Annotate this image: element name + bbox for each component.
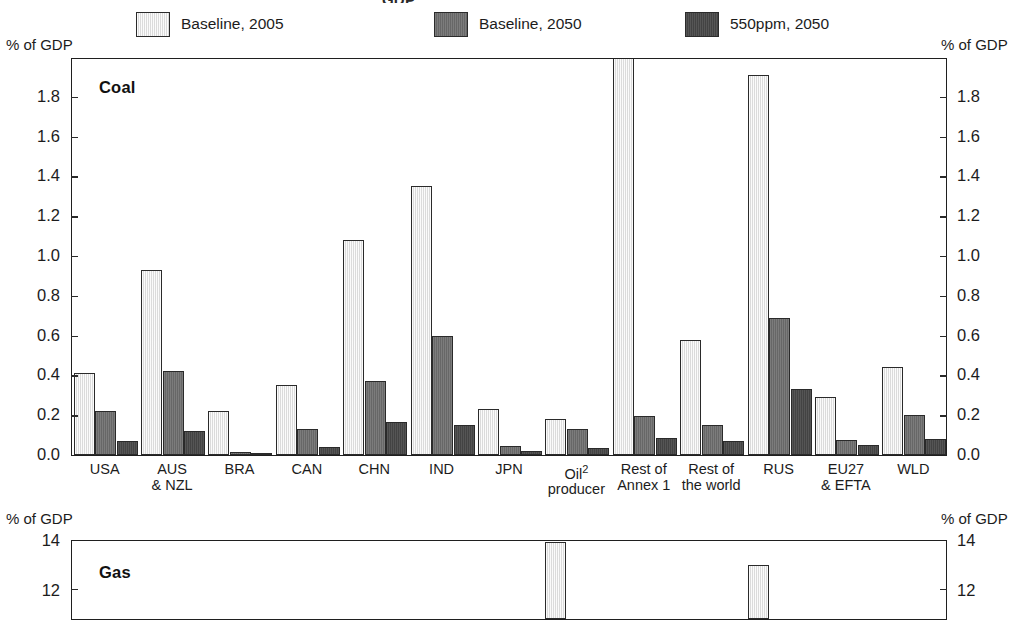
gas-ytick-12-right: 12 bbox=[957, 581, 975, 600]
gas-ytick-12-left: 12 bbox=[28, 581, 60, 600]
coal-tickmark-right-0.8 bbox=[940, 296, 947, 297]
coal-bar bbox=[791, 389, 812, 455]
coal-ytick-left-0.2: 0.2 bbox=[8, 405, 60, 424]
coal-bar bbox=[769, 318, 790, 455]
coal-plot-area bbox=[71, 58, 947, 456]
coal-tickmark-left-0.2 bbox=[71, 415, 78, 416]
coal-ytick-right-0.2: 0.2 bbox=[957, 405, 980, 424]
coal-ytick-right-1.0: 1.0 bbox=[957, 246, 980, 265]
coal-ytick-left-1.6: 1.6 bbox=[8, 127, 60, 146]
coal-bar bbox=[545, 419, 566, 455]
coal-bar bbox=[95, 411, 116, 455]
coal-tickmark-left-1.6 bbox=[71, 137, 78, 138]
coal-xlabel: WLD bbox=[874, 462, 953, 478]
coal-bar bbox=[454, 425, 475, 455]
coal-bar bbox=[858, 445, 879, 455]
coal-ytick-left-0.8: 0.8 bbox=[8, 286, 60, 305]
coal-tickmark-left-0.4 bbox=[71, 375, 78, 376]
coal-tickmark-right-1.2 bbox=[940, 216, 947, 217]
coal-ytick-right-0.0: 0.0 bbox=[957, 445, 980, 464]
coal-tickmark-left-1.0 bbox=[71, 256, 78, 257]
coal-bar bbox=[251, 453, 272, 455]
gas-bar bbox=[545, 542, 566, 619]
gas-tick-12-right bbox=[940, 589, 947, 590]
coal-bar bbox=[588, 448, 609, 455]
coal-ytick-left-1.4: 1.4 bbox=[8, 166, 60, 185]
coal-bar bbox=[184, 431, 205, 455]
coal-bar bbox=[904, 415, 925, 455]
coal-bar bbox=[521, 451, 542, 455]
coal-ytick-left-0.4: 0.4 bbox=[8, 365, 60, 384]
coal-bar bbox=[386, 422, 407, 455]
coal-bar bbox=[208, 411, 229, 455]
coal-panel-title: Coal bbox=[99, 78, 136, 97]
coal-ytick-right-1.4: 1.4 bbox=[957, 166, 980, 185]
gas-right-axis-unit: % of GDP bbox=[941, 510, 1008, 527]
coal-bar bbox=[567, 429, 588, 455]
gas-ytick-14-right: 14 bbox=[957, 531, 975, 550]
coal-bar bbox=[656, 438, 677, 455]
coal-tickmark-right-0.4 bbox=[940, 375, 947, 376]
coal-bar bbox=[117, 441, 138, 455]
coal-ytick-right-1.6: 1.6 bbox=[957, 127, 980, 146]
coal-bar bbox=[815, 397, 836, 455]
coal-bar bbox=[836, 440, 857, 455]
coal-bar bbox=[882, 367, 903, 455]
coal-bar bbox=[723, 441, 744, 455]
coal-tickmark-right-0.2 bbox=[940, 415, 947, 416]
coal-bar bbox=[634, 416, 655, 455]
coal-bar bbox=[500, 446, 521, 455]
coal-bar bbox=[230, 452, 251, 455]
coal-ytick-left-1.8: 1.8 bbox=[8, 87, 60, 106]
coal-tickmark-left-0.6 bbox=[71, 336, 78, 337]
coal-bar bbox=[411, 186, 432, 455]
coal-ytick-right-1.8: 1.8 bbox=[957, 87, 980, 106]
gas-tick-12-left bbox=[71, 589, 78, 590]
gas-left-axis-unit: % of GDP bbox=[6, 510, 73, 527]
coal-bar bbox=[297, 429, 318, 455]
coal-tickmark-left-1.4 bbox=[71, 176, 78, 177]
coal-bar bbox=[365, 381, 386, 455]
coal-bar bbox=[432, 336, 453, 455]
gas-ytick-14-left: 14 bbox=[28, 531, 60, 550]
coal-tickmark-left-0.8 bbox=[71, 296, 78, 297]
coal-bar bbox=[343, 240, 364, 455]
coal-bar bbox=[680, 340, 701, 455]
coal-bar bbox=[925, 439, 946, 455]
coal-ytick-left-0.0: 0.0 bbox=[8, 445, 60, 464]
coal-ytick-left-1.0: 1.0 bbox=[8, 246, 60, 265]
coal-ytick-left-1.2: 1.2 bbox=[8, 206, 60, 225]
coal-bar bbox=[141, 270, 162, 455]
coal-tickmark-right-1.4 bbox=[940, 176, 947, 177]
coal-ytick-right-1.2: 1.2 bbox=[957, 206, 980, 225]
gas-panel-title: Gas bbox=[99, 563, 131, 582]
coal-bar bbox=[478, 409, 499, 455]
coal-tickmark-left-1.2 bbox=[71, 216, 78, 217]
gas-plot-area bbox=[71, 540, 947, 620]
coal-ytick-right-0.4: 0.4 bbox=[957, 365, 980, 384]
coal-tickmark-left-1.8 bbox=[71, 97, 78, 98]
coal-bar bbox=[319, 447, 340, 455]
coal-ytick-right-0.6: 0.6 bbox=[957, 326, 980, 345]
coal-bar bbox=[163, 371, 184, 455]
coal-bar bbox=[276, 385, 297, 455]
gas-bar bbox=[748, 565, 769, 620]
coal-tickmark-right-1.6 bbox=[940, 137, 947, 138]
coal-tickmark-right-0.6 bbox=[940, 336, 947, 337]
coal-xlabel-footnote-marker: 2 bbox=[582, 463, 588, 475]
coal-bar bbox=[613, 58, 634, 455]
coal-tickmark-right-1.8 bbox=[940, 97, 947, 98]
coal-ytick-left-0.6: 0.6 bbox=[8, 326, 60, 345]
coal-ytick-right-0.8: 0.8 bbox=[957, 286, 980, 305]
chart-panel-gas: % of GDP % of GDP Gas 14 14 12 12 bbox=[0, 505, 1026, 612]
chart-panel-coal: Coal 0.00.20.40.60.81.01.21.41.61.8 0.00… bbox=[0, 0, 1026, 505]
coal-bar bbox=[702, 425, 723, 455]
coal-bar bbox=[748, 75, 769, 455]
coal-tickmark-right-1.0 bbox=[940, 256, 947, 257]
